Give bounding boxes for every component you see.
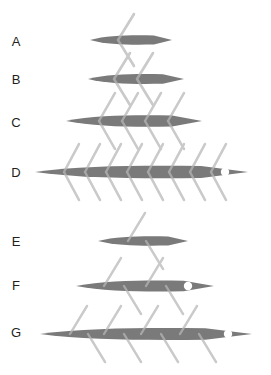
row-label-e: E	[12, 234, 21, 249]
specimen-diagram: ABCDEFG	[0, 0, 271, 375]
row-label-g: G	[11, 325, 21, 340]
row-label-d: D	[11, 165, 20, 180]
aperture-marker	[224, 330, 232, 338]
row-label-c: C	[11, 115, 20, 130]
aperture-marker	[221, 168, 229, 176]
row-label-a: A	[12, 34, 21, 49]
row-label-f: F	[12, 278, 20, 293]
row-label-b: B	[12, 72, 21, 87]
aperture-marker	[184, 282, 192, 290]
